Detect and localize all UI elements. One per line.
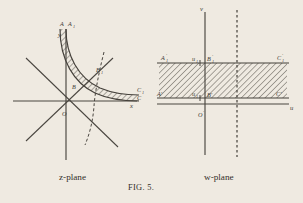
caption-figure-number: FIG. 5. bbox=[128, 183, 154, 192]
caption-w-plane: w-plane bbox=[204, 172, 234, 182]
caption-z-plane: z-plane bbox=[59, 172, 86, 182]
w-point-A1-prime-mark: ′ bbox=[166, 53, 167, 58]
w-point-A-prime: A′ bbox=[156, 90, 163, 97]
w-point-C-prime: C′ bbox=[276, 90, 282, 97]
z-point-A1-subscript: 1 bbox=[73, 24, 75, 29]
w-tick-u1-upper-letter: u bbox=[192, 55, 195, 62]
w-origin-label: O ′ bbox=[198, 110, 204, 118]
w-point-C1-prime: C 1 ′ bbox=[277, 53, 284, 63]
figure-root: y x O A A 1 B 1 B C 1 C bbox=[0, 0, 303, 203]
z-point-A1: A 1 bbox=[67, 20, 75, 29]
z-axis-y-label: y bbox=[57, 31, 61, 38]
z-point-C1-subscript: 1 bbox=[142, 90, 144, 95]
z-point-A1-letter: A bbox=[67, 20, 72, 27]
w-tick-u1-lower-subscript: 1 bbox=[196, 94, 198, 99]
w-axis-u-label: u bbox=[290, 104, 294, 111]
z-point-B: B bbox=[72, 83, 76, 90]
w-hatched-strip bbox=[159, 63, 287, 98]
w-point-B1-prime-letter: B bbox=[207, 55, 211, 62]
w-plane-group: v u O ′ u 1 u 1 A 1 ′ B 1 ′ C 1 ′ bbox=[156, 5, 294, 157]
w-point-C1-prime-mark: ′ bbox=[282, 53, 283, 58]
z-point-B1-letter: B bbox=[96, 66, 100, 73]
w-tick-u1-upper-subscript: 1 bbox=[196, 59, 198, 64]
w-axis-v-label: v bbox=[200, 5, 203, 12]
z-point-A: A bbox=[59, 20, 64, 27]
w-point-B1-prime-subscript: 1 bbox=[212, 59, 214, 64]
z-axis-x-label: x bbox=[129, 102, 133, 109]
w-point-B1-prime-mark: ′ bbox=[212, 54, 213, 59]
w-point-C1-prime-subscript: 1 bbox=[282, 58, 284, 63]
w-origin-prime: ′ bbox=[203, 110, 204, 115]
fig-5-svg: y x O A A 1 B 1 B C 1 C bbox=[0, 0, 303, 203]
w-tick-u1-lower-letter: u bbox=[192, 90, 195, 97]
w-point-B-prime: B′ bbox=[207, 91, 213, 98]
z-point-C: C bbox=[137, 94, 142, 101]
z-origin-label: O bbox=[62, 110, 67, 117]
w-point-A1-prime-subscript: 1 bbox=[166, 58, 168, 63]
z-point-B1-subscript: 1 bbox=[101, 70, 103, 75]
w-point-A1-prime: A 1 ′ bbox=[160, 53, 168, 63]
z-hyperbola-branch-inner bbox=[66, 29, 139, 95]
w-point-A1-prime-letter: A bbox=[160, 54, 165, 61]
z-plane-group: y x O A A 1 B 1 B C 1 C bbox=[13, 20, 145, 160]
